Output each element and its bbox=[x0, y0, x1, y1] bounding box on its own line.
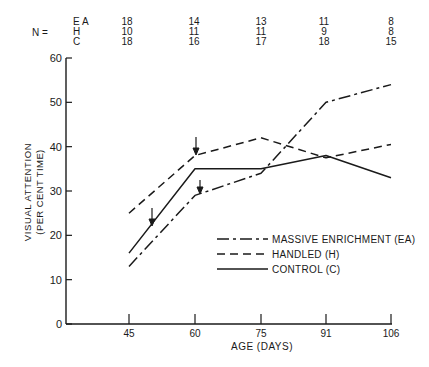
legend-label-h: HANDLED (H) bbox=[272, 249, 340, 260]
y-axis-title-group: VISUAL ATTENTION (PER CENT TIME) bbox=[22, 143, 45, 241]
x-axis-title: AGE (DAYS) bbox=[231, 341, 293, 352]
x-tick-label: 60 bbox=[189, 328, 201, 339]
y-tick-label: 0 bbox=[56, 318, 62, 330]
n-value: 15 bbox=[385, 36, 397, 47]
legend-label-c: CONTROL (C) bbox=[272, 264, 340, 275]
y-tick-label: 30 bbox=[50, 185, 62, 197]
sample-size-table: N = E A H C 181413118101111981816171815 bbox=[32, 16, 397, 47]
n-group-c: C bbox=[73, 36, 80, 47]
n-value: 18 bbox=[318, 36, 330, 47]
arrow-ea-60-icon bbox=[197, 180, 203, 194]
x-tick-label: 75 bbox=[255, 328, 267, 339]
n-values: 181413118101111981816171815 bbox=[121, 16, 397, 47]
arrow-h-60-icon bbox=[193, 137, 199, 155]
axes: 0102030405060 45607591106 bbox=[50, 52, 400, 339]
y-tick-label: 60 bbox=[50, 52, 62, 64]
x-ticks: 45607591106 bbox=[123, 314, 399, 339]
y-axis-subtitle: (PER CENT TIME) bbox=[34, 149, 45, 234]
y-tick-label: 20 bbox=[50, 229, 62, 241]
legend: MASSIVE ENRICHMENT (EA)HANDLED (H)CONTRO… bbox=[217, 234, 415, 275]
x-tick-label: 106 bbox=[383, 328, 400, 339]
x-tick-label: 91 bbox=[320, 328, 332, 339]
y-tick-label: 40 bbox=[50, 141, 62, 153]
arrow-c-50-icon bbox=[149, 208, 155, 226]
annotation-arrows bbox=[149, 137, 203, 226]
n-value: 17 bbox=[255, 36, 267, 47]
n-label: N = bbox=[32, 27, 48, 38]
n-value: 16 bbox=[188, 36, 200, 47]
y-ticks: 0102030405060 bbox=[50, 52, 72, 330]
y-axis-title: VISUAL ATTENTION bbox=[22, 143, 33, 241]
x-tick-label: 45 bbox=[123, 328, 135, 339]
y-tick-label: 50 bbox=[50, 96, 62, 108]
n-value: 18 bbox=[121, 36, 133, 47]
legend-label-ea: MASSIVE ENRICHMENT (EA) bbox=[272, 234, 415, 245]
line-chart: N = E A H C 181413118101111981816171815 … bbox=[0, 0, 429, 367]
y-tick-label: 10 bbox=[50, 274, 62, 286]
